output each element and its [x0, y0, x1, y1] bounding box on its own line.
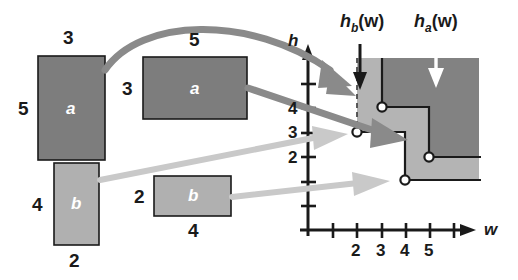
h-axis-label: h: [288, 32, 298, 49]
rect-b-tall-name: b: [71, 195, 81, 212]
callout-ha-sub: a: [425, 21, 432, 35]
callout-hb-arg: (w): [358, 11, 384, 31]
mapping-arrow-b-wide: [232, 172, 390, 197]
w-tick-label-3: 3: [376, 242, 385, 259]
rect-a-wide-height-label: 3: [122, 79, 133, 98]
w-tick-label-5: 5: [424, 242, 433, 259]
callout-ha-arg: (w): [432, 11, 458, 31]
rect-a-tall-height-label: 5: [18, 99, 29, 118]
h-tick-label-5: 4: [288, 100, 297, 117]
w-axis-label: w: [484, 221, 497, 238]
rect-a-tall-name: a: [66, 100, 75, 117]
callout-ha-h: h: [414, 11, 425, 31]
rect-b-wide-height-label: 2: [134, 187, 145, 206]
w-tick-label-4: 4: [400, 242, 409, 259]
marker-ha-5-3: [424, 152, 433, 161]
callout-label-ha: ha(w): [414, 12, 458, 34]
marker-ha-3-5: [377, 102, 386, 111]
marker-hb-4-2: [400, 175, 409, 184]
callout-hb-h: h: [340, 11, 351, 31]
rect-b-tall-height-label: 4: [32, 195, 43, 214]
rect-b-wide-width-label: 4: [188, 221, 199, 240]
rect-b-tall-width-label: 2: [69, 251, 80, 270]
rect-a-tall-width-label: 3: [63, 28, 74, 47]
rect-a-wide-width-label: 5: [189, 30, 200, 49]
figure-graphics: [0, 0, 518, 280]
rect-b-wide-name: b: [188, 187, 198, 204]
callout-label-hb: hb(w): [340, 12, 384, 34]
h-tick-label-4: 3: [288, 124, 297, 141]
w-axis-arrowhead: [460, 224, 476, 236]
w-tick-label-2: 2: [351, 242, 360, 259]
rect-a-wide-name: a: [190, 80, 199, 97]
h-tick-label-3: 2: [288, 149, 297, 166]
figure-canvas: 3 5 a 2 4 b 5 3 a 4 2 b h w 4 3 2 2 3 4 …: [0, 0, 518, 280]
